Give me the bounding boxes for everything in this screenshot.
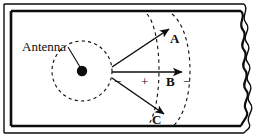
figure-background	[0, 0, 268, 137]
polarity-minus-right: −	[183, 74, 190, 89]
polarity-minus-left: −	[114, 74, 121, 89]
ray-c-label: C	[152, 112, 161, 127]
ray-a-label: A	[170, 31, 180, 46]
polarity-plus-center: +	[141, 74, 148, 89]
ray-b-label: B	[166, 74, 175, 89]
antenna-label: Antenna	[22, 39, 66, 54]
figure-canvas: Antenna A B C − + −	[0, 0, 268, 137]
waveguide-antenna-figure: Antenna A B C − + −	[0, 0, 268, 137]
antenna-source-dot	[77, 66, 87, 76]
